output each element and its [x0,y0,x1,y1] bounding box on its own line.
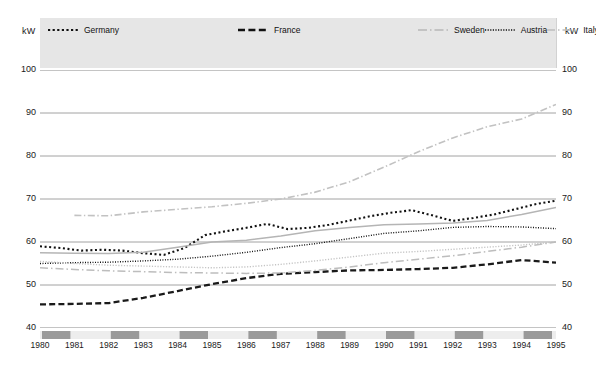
y-axis-tick-label-left: 90 [14,107,36,117]
line-swatch-icon [547,26,577,34]
x-axis-tick-label: 1989 [333,340,367,350]
legend-list: GermanyFranceSwedenAustriaItalyBelgiumUn… [40,18,556,68]
y-axis-tick-label-right: 100 [562,64,586,74]
x-axis-tick-label: 1992 [436,340,470,350]
y-axis-tick-label-left: 70 [14,193,36,203]
series-line-austria [40,227,556,264]
legend-item-label: Germany [84,26,119,35]
line-swatch-icon [238,26,268,34]
axis-band-block [111,331,139,339]
legend: GermanyFranceSwedenAustriaItalyBelgiumUn… [40,18,557,68]
x-axis-tick-label: 1981 [57,340,91,350]
chart-container: kW kW GermanyFranceSwedenAustriaItalyBel… [0,0,596,365]
series-line-germany [40,201,556,255]
x-axis-tick-label: 1987 [264,340,298,350]
legend-item-austria[interactable]: Austria [485,22,547,38]
axis-band-block [180,331,208,339]
axis-band-block [317,331,345,339]
y-axis-unit-left: kW [22,26,35,36]
y-axis-tick-label-left: 50 [14,279,36,289]
legend-item-label: Austria [521,26,547,35]
x-axis-tick-label: 1986 [229,340,263,350]
y-axis-tick-label-right: 80 [562,150,586,160]
x-axis-tick-label: 1994 [505,340,539,350]
legend-item-sweden[interactable]: Sweden [418,22,485,38]
x-axis-tick-label: 1983 [126,340,160,350]
series-line-sweden [40,242,556,273]
x-axis-tick-label: 1990 [367,340,401,350]
axis-band-block [386,331,414,339]
y-axis-tick-label-right: 70 [562,193,586,203]
x-axis-tick-label: 1984 [161,340,195,350]
x-axis-tick-label: 1980 [23,340,57,350]
legend-item-italy[interactable]: Italy [547,22,596,38]
x-axis-tick-label: 1985 [195,340,229,350]
y-axis-tick-label-right: 60 [562,236,586,246]
line-swatch-icon [418,26,448,34]
legend-item-germany[interactable]: Germany [48,22,238,38]
x-axis-tick-label: 1991 [401,340,435,350]
legend-item-label: Italy [583,26,596,35]
line-swatch-icon [48,26,78,34]
axis-band-block [455,331,483,339]
y-axis-tick-label-right: 40 [562,322,586,332]
x-axis-tick-label: 1993 [470,340,504,350]
series-line-belgium [40,242,556,268]
line-swatch-icon [485,26,515,34]
x-axis-tick-label: 1995 [539,340,573,350]
plot-svg [40,70,556,328]
axis-band-block [248,331,276,339]
axis-band-block [42,331,70,339]
legend-item-france[interactable]: France [238,22,418,38]
y-axis-tick-label-left: 100 [14,64,36,74]
x-axis-tick-label: 1982 [92,340,126,350]
x-axis-tick-label: 1988 [298,340,332,350]
y-axis-tick-label-right: 50 [562,279,586,289]
y-axis-tick-label-left: 40 [14,322,36,332]
legend-item-label: France [274,26,300,35]
y-axis-tick-label-left: 60 [14,236,36,246]
y-axis-tick-label-right: 90 [562,107,586,117]
axis-band-block [524,331,552,339]
y-axis-tick-label-left: 80 [14,150,36,160]
legend-item-label: Sweden [454,26,485,35]
series-line-france [40,260,556,304]
plot-area [40,70,556,328]
